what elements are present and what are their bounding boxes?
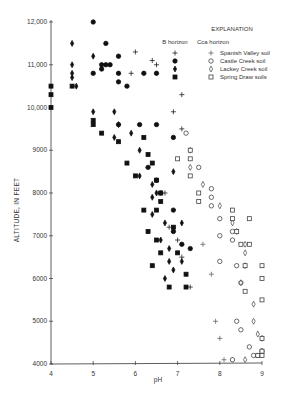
plus-filled-point [188, 285, 193, 290]
circle-filled-point [91, 71, 95, 75]
square-open-point [256, 353, 260, 357]
square-open-point [260, 298, 264, 302]
square-open-point [230, 208, 234, 212]
diamond-filled-point [113, 109, 116, 115]
circle-filled-point [180, 242, 184, 246]
diamond-filled-point [180, 220, 183, 226]
plus-filled-point [154, 62, 159, 67]
square-filled-point [146, 229, 150, 233]
legend-title: EXPLANATION [211, 26, 253, 32]
plus-filled-point [129, 71, 134, 76]
x-tick-label: 8 [218, 370, 222, 377]
circle-open-point [239, 328, 243, 332]
circle-open-point [184, 131, 188, 135]
diamond-open-point [244, 241, 247, 247]
y-tick-label: 4000 [33, 360, 48, 367]
plus-filled-point [167, 225, 172, 230]
plus-filled-point [179, 126, 184, 131]
square-filled-point [159, 200, 163, 204]
circle-open-point [230, 238, 234, 242]
circle-open-point [247, 345, 251, 349]
legend-marker-open [209, 66, 212, 72]
square-open-point [188, 148, 192, 152]
legend-marker-open [209, 51, 214, 56]
circle-filled-point [171, 208, 175, 212]
y-axis-title: ALTITUDE, IN FEET [13, 178, 20, 243]
diamond-filled-point [92, 53, 95, 59]
legend-marker-open [209, 75, 213, 79]
legend-marker-filled [173, 59, 177, 63]
square-filled-point [155, 238, 159, 242]
square-filled-point [49, 93, 53, 97]
circle-open-point [209, 187, 213, 191]
circle-open-point [230, 229, 234, 233]
legend-marker-filled [173, 75, 177, 79]
diamond-filled-point [71, 40, 74, 46]
circle-filled-point [116, 80, 120, 84]
diamond-filled-point [138, 147, 141, 153]
x-axis-line [51, 363, 262, 364]
square-filled-point [133, 174, 137, 178]
square-filled-point [100, 131, 104, 135]
square-filled-point [176, 251, 180, 255]
square-filled-point [91, 118, 95, 122]
square-open-point [260, 336, 264, 340]
square-filled-point [159, 251, 163, 255]
square-filled-point [159, 191, 163, 195]
square-open-point [247, 242, 251, 246]
square-filled-point [49, 106, 53, 110]
y-tick-label: 12,000 [27, 18, 47, 25]
legend-marker-filled [173, 51, 178, 56]
circle-open-point [234, 319, 238, 323]
circle-open-point [209, 204, 213, 208]
square-filled-point [49, 84, 53, 88]
square-open-point [239, 242, 243, 246]
y-tick-label: 8000 [33, 189, 48, 196]
legend: EXPLANATIONB horizonCca horizonSpanish V… [162, 26, 270, 80]
square-filled-point [142, 135, 146, 139]
legend-entry-label: Spanish Valley soil [220, 50, 270, 56]
square-filled-point [184, 285, 188, 289]
x-axis-title: pH [154, 376, 163, 384]
diamond-filled-point [159, 237, 162, 243]
diamond-filled-point [138, 173, 141, 179]
plus-filled-point [175, 238, 180, 243]
diamond-filled-point [151, 181, 154, 187]
circle-filled-point [171, 135, 175, 139]
diamond-filled-point [151, 211, 154, 217]
square-open-point [260, 277, 264, 281]
diamond-filled-point [113, 134, 116, 140]
x-tick-label: 7 [176, 370, 180, 377]
square-open-point [188, 174, 192, 178]
plus-filled-point [171, 109, 176, 114]
x-tick-label: 5 [91, 370, 95, 377]
diamond-open-point [189, 164, 192, 170]
square-open-point [230, 217, 234, 221]
square-filled-point [146, 153, 150, 157]
x-tick-label: 9 [260, 370, 264, 377]
square-open-point [247, 217, 251, 221]
square-open-point [188, 157, 192, 161]
square-filled-point [150, 161, 154, 165]
legend-entry-label: Castle Creek soil [220, 58, 265, 64]
legend-header-b-horizon: B horizon [162, 39, 187, 45]
x-tick-label: 4 [49, 370, 53, 377]
square-filled-point [125, 161, 129, 165]
diamond-filled-point [163, 220, 166, 226]
circle-open-point [218, 234, 222, 238]
diamond-open-point [201, 181, 204, 187]
diamond-filled-point [71, 75, 74, 81]
square-filled-point [167, 285, 171, 289]
scatter-chart: 45678940005000600070008000900010,00011,0… [0, 0, 282, 397]
legend-marker-open [209, 59, 213, 63]
square-open-point [243, 264, 247, 268]
circle-filled-point [154, 122, 158, 126]
diamond-filled-point [168, 246, 171, 252]
square-filled-point [155, 178, 159, 182]
diamond-filled-point [168, 258, 171, 264]
circle-filled-point [104, 41, 108, 45]
plus-open-point [200, 242, 205, 247]
circle-filled-point [108, 63, 112, 67]
plus-filled-point [150, 58, 155, 63]
legend-header-cca-horizon: Cca horizon [197, 39, 229, 45]
